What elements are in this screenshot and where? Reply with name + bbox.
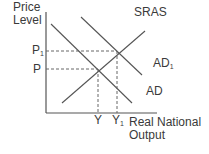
- x-axis-label-line2: Output: [129, 129, 165, 142]
- sras-label: SRAS: [134, 6, 167, 19]
- sras-curve: [62, 31, 145, 103]
- ad-label: AD: [146, 85, 163, 98]
- y1-label: Y1: [112, 114, 124, 130]
- y-label: Y: [94, 114, 102, 127]
- y-axis-label-line2: Level: [13, 14, 42, 27]
- ad1-label: AD1: [153, 57, 174, 73]
- ad1-curve: [81, 17, 142, 75]
- ad1-label-text: AD: [153, 56, 170, 70]
- p-label: P: [33, 63, 41, 76]
- y1-label-text: Y: [112, 113, 120, 127]
- y1-label-sub: 1: [120, 120, 124, 127]
- ad1-label-sub: 1: [170, 63, 174, 70]
- p1-label: P1: [32, 44, 44, 60]
- p1-label-text: P: [32, 43, 40, 57]
- p1-label-sub: 1: [40, 50, 44, 57]
- ad-curve: [51, 24, 132, 103]
